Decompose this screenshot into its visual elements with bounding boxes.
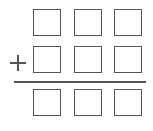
sum-divider-line [14,81,146,83]
addend2-hundreds-box[interactable] [33,46,61,73]
addend1-ones-box[interactable] [114,9,142,36]
plus-icon [10,55,26,71]
addend2-ones-box[interactable] [114,46,142,73]
sum-ones-box[interactable] [114,89,142,116]
addend1-hundreds-box[interactable] [33,9,61,36]
addend1-tens-box[interactable] [74,9,102,36]
sum-tens-box[interactable] [74,89,102,116]
sum-hundreds-box[interactable] [33,89,61,116]
addend2-tens-box[interactable] [74,46,102,73]
